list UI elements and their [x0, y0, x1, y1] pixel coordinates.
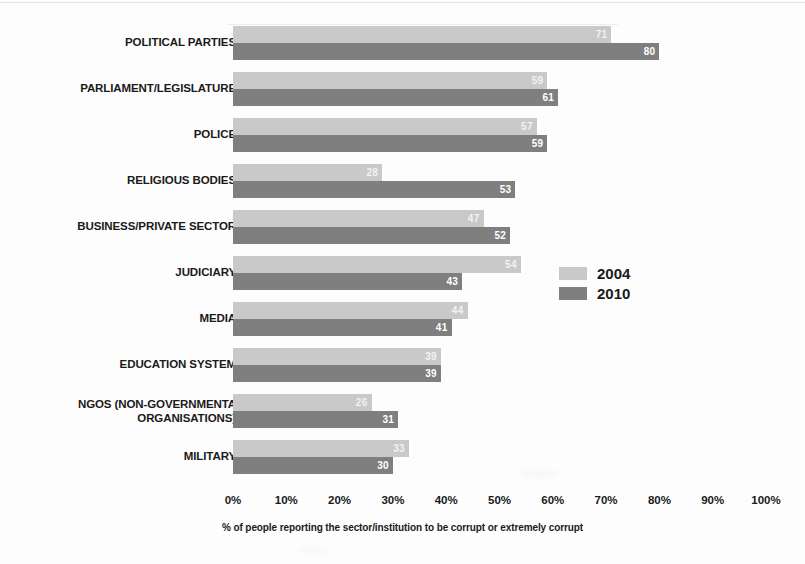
bar-value-label: 30 — [377, 461, 389, 471]
bar-value-label: 43 — [446, 277, 458, 287]
legend-item-2010: 2010 — [559, 284, 689, 302]
bar-value-label: 26 — [356, 398, 368, 408]
bar-value-label: 33 — [393, 444, 405, 454]
category-label: MEDIA — [0, 312, 236, 325]
x-tick-label: 100% — [751, 494, 780, 506]
bar-value-label: 71 — [596, 30, 608, 40]
bar-value-label: 44 — [452, 306, 464, 316]
plot-area: 7180596157592853475254434441393926313330 — [233, 22, 766, 484]
bar-2004: 47 — [233, 210, 484, 227]
category-axis-labels: POLITICAL PARTIESPARLIAMENT/LEGISLATUREP… — [0, 22, 236, 484]
bar-value-label: 57 — [521, 122, 533, 132]
bar-2004: 33 — [233, 440, 409, 457]
bar-value-label: 59 — [532, 76, 544, 86]
bar-value-label: 31 — [382, 415, 394, 425]
chart-legend: 2004 2010 — [559, 264, 689, 304]
bar-2010: 52 — [233, 227, 510, 244]
bar-2010: 61 — [233, 89, 558, 106]
bar-chart-figure: POLITICAL PARTIESPARLIAMENT/LEGISLATUREP… — [0, 0, 805, 564]
bar-group: 2853 — [233, 164, 766, 200]
bar-2004: 57 — [233, 118, 537, 135]
bar-group: 7180 — [233, 26, 766, 62]
bar-value-label: 28 — [367, 168, 379, 178]
bar-2004: 44 — [233, 302, 468, 319]
bar-2010: 31 — [233, 411, 398, 428]
bar-2010: 39 — [233, 365, 441, 382]
x-tick-label: 60% — [541, 494, 564, 506]
bar-value-label: 52 — [494, 231, 506, 241]
bar-group: 4752 — [233, 210, 766, 246]
bar-value-label: 54 — [505, 260, 517, 270]
x-tick-label: 0% — [225, 494, 242, 506]
bar-value-label: 80 — [644, 47, 656, 57]
scan-artifact-line-top — [0, 2, 805, 3]
bar-value-label: 47 — [468, 214, 480, 224]
category-label: EDUCATION SYSTEM — [0, 358, 236, 371]
bar-group: 5759 — [233, 118, 766, 154]
bar-2010: 53 — [233, 181, 515, 198]
bar-value-label: 61 — [542, 93, 554, 103]
bar-2010: 41 — [233, 319, 452, 336]
category-label: POLITICAL PARTIES — [0, 36, 236, 49]
bar-2004: 71 — [233, 26, 611, 43]
bar-2010: 59 — [233, 135, 547, 152]
bar-2004: 28 — [233, 164, 382, 181]
bar-2010: 30 — [233, 457, 393, 474]
bar-value-label: 59 — [532, 139, 544, 149]
x-axis-ticks: 0%10%20%30%40%50%60%70%80%90%100% — [233, 494, 766, 512]
x-tick-label: 30% — [381, 494, 404, 506]
category-label: JUDICIARY — [0, 266, 236, 279]
bar-group: 4441 — [233, 302, 766, 338]
category-label: MILITARY — [0, 450, 236, 463]
bar-2004: 54 — [233, 256, 521, 273]
category-label: NGOS (NON-GOVERNMENTA ORGANISATIONS) — [0, 397, 236, 425]
category-label: BUSINESS/PRIVATE SECTOR — [0, 220, 236, 233]
x-tick-label: 50% — [488, 494, 511, 506]
bar-group: 3939 — [233, 348, 766, 384]
x-tick-label: 70% — [595, 494, 618, 506]
legend-item-2004: 2004 — [559, 264, 689, 282]
bar-2010: 80 — [233, 43, 659, 60]
scan-artifact-blotch — [300, 548, 330, 555]
legend-label-2004: 2004 — [597, 266, 630, 281]
bar-2004: 59 — [233, 72, 547, 89]
x-tick-label: 10% — [275, 494, 298, 506]
bar-value-label: 39 — [425, 369, 437, 379]
bar-group: 5961 — [233, 72, 766, 108]
bar-value-label: 53 — [500, 185, 512, 195]
legend-swatch-2004-icon — [559, 267, 587, 280]
bar-2004: 39 — [233, 348, 441, 365]
bar-group: 3330 — [233, 440, 766, 476]
bar-value-label: 41 — [436, 323, 448, 333]
bar-2004: 26 — [233, 394, 372, 411]
x-tick-label: 40% — [435, 494, 458, 506]
bar-group: 2631 — [233, 394, 766, 430]
category-label: PARLIAMENT/LEGISLATURE — [0, 82, 236, 95]
legend-label-2010: 2010 — [597, 286, 630, 301]
category-label: RELIGIOUS BODIES — [0, 174, 236, 187]
x-tick-label: 20% — [328, 494, 351, 506]
category-label: POLICE — [0, 128, 236, 141]
legend-swatch-2010-icon — [559, 287, 587, 300]
x-axis-caption: % of people reporting the sector/institu… — [0, 522, 805, 533]
x-tick-label: 80% — [648, 494, 671, 506]
bar-2010: 43 — [233, 273, 462, 290]
x-tick-label: 90% — [701, 494, 724, 506]
bar-value-label: 39 — [425, 352, 437, 362]
